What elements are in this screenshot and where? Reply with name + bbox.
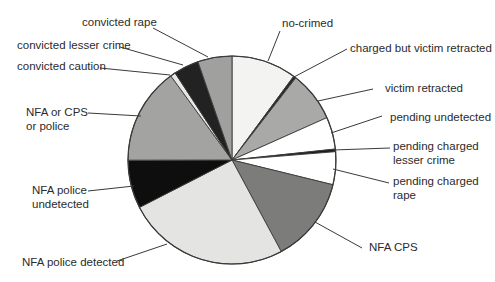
label-charged-but-victim-retracted: charged but victim retracted: [350, 42, 492, 55]
label-victim-retracted: victim retracted: [385, 82, 463, 95]
leader-pending-charged-rape: [333, 169, 389, 183]
leader-no-crimed: [268, 31, 280, 61]
label-pending-undetected: pending undetected: [390, 111, 491, 124]
label-nfa-police-detected: NFA police detected: [22, 256, 124, 269]
pie-slices: [128, 56, 336, 264]
label-pending-charged-lesser-line2: lesser crime: [393, 154, 455, 167]
leader-convicted-caution: [100, 68, 170, 75]
leader-pending-undetected: [331, 116, 382, 133]
label-convicted-caution: convicted caution: [17, 60, 106, 73]
label-pending-charged-rape-line1: pending charged: [393, 175, 479, 188]
leader-pending-charged-lesser: [333, 148, 390, 150]
leader-nfa-cps: [315, 222, 362, 248]
label-nfa-police-undetected-line2: undetected: [32, 198, 89, 211]
label-no-crimed: no-crimed: [282, 17, 333, 30]
leader-charged-but-victim-retracted: [294, 49, 347, 77]
label-nfa-cps: NFA CPS: [369, 241, 418, 254]
label-convicted-lesser-crime: convicted lesser crime: [17, 39, 131, 52]
label-nfa-or-cps-line1: NFA or CPS: [26, 106, 88, 119]
label-convicted-rape: convicted rape: [82, 16, 157, 29]
label-pending-charged-lesser-line1: pending charged: [393, 140, 479, 153]
leader-convicted-rape: [153, 28, 208, 57]
label-nfa-police-undetected-line1: NFA police: [32, 184, 87, 197]
label-pending-charged-rape-line2: rape: [393, 189, 416, 202]
leader-nfa-police-detected: [117, 244, 167, 261]
leader-victim-retracted: [318, 89, 373, 101]
leader-nfa-or-cps: [88, 113, 141, 116]
label-nfa-or-cps-line2: or police: [26, 120, 69, 133]
leader-nfa-police-undetected: [88, 186, 134, 191]
